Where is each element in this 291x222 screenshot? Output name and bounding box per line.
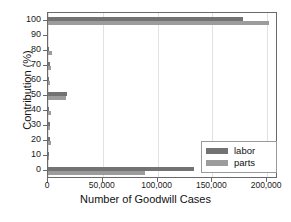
legend-label-parts: parts bbox=[234, 158, 255, 168]
bar-parts-80 bbox=[48, 51, 52, 55]
y-tick-mark-100 bbox=[43, 20, 47, 21]
y-tick-label-0: 0 bbox=[0, 165, 41, 174]
bar-parts-30 bbox=[48, 126, 50, 130]
gridline-x-1 bbox=[103, 13, 104, 177]
x-tick-label-0: 0 bbox=[45, 181, 50, 190]
x-tick-mark-3 bbox=[211, 178, 212, 182]
bar-parts-10 bbox=[48, 156, 49, 160]
gridline-x-2 bbox=[158, 13, 159, 177]
legend-item-labor: labor bbox=[206, 145, 272, 157]
y-axis-label: Contribution (%) bbox=[21, 15, 33, 165]
bar-parts-60 bbox=[48, 81, 50, 85]
y-tick-mark-20 bbox=[43, 140, 47, 141]
bar-parts-0 bbox=[48, 171, 145, 175]
y-tick-mark-10 bbox=[43, 155, 47, 156]
legend-swatch-labor-icon bbox=[206, 148, 228, 154]
bar-parts-40 bbox=[48, 111, 51, 115]
legend-item-parts: parts bbox=[206, 157, 272, 169]
legend-label-labor: labor bbox=[234, 146, 255, 156]
y-tick-mark-0 bbox=[43, 170, 47, 171]
x-tick-label-3: 150,000 bbox=[196, 181, 227, 190]
y-tick-mark-70 bbox=[43, 65, 47, 66]
y-tick-mark-30 bbox=[43, 125, 47, 126]
legend-swatch-parts-icon bbox=[206, 160, 228, 166]
y-tick-mark-80 bbox=[43, 50, 47, 51]
bar-parts-70 bbox=[48, 66, 51, 70]
bar-chart-figure: 0102030405060708090100 050,000100,000150… bbox=[0, 0, 291, 222]
y-tick-mark-50 bbox=[43, 95, 47, 96]
chart-legend: labor parts bbox=[201, 141, 277, 173]
y-tick-mark-60 bbox=[43, 80, 47, 81]
x-axis-label: Number of Goodwill Cases bbox=[0, 193, 291, 205]
bar-parts-50 bbox=[48, 96, 66, 100]
bar-parts-100 bbox=[48, 21, 269, 25]
x-tick-mark-2 bbox=[157, 178, 158, 182]
x-tick-label-2: 100,000 bbox=[141, 181, 172, 190]
x-tick-label-1: 50,000 bbox=[89, 181, 115, 190]
x-tick-mark-0 bbox=[47, 178, 48, 182]
y-tick-mark-40 bbox=[43, 110, 47, 111]
y-tick-mark-90 bbox=[43, 35, 47, 36]
x-tick-label-4: 200,000 bbox=[251, 181, 282, 190]
x-tick-mark-1 bbox=[102, 178, 103, 182]
x-tick-mark-4 bbox=[266, 178, 267, 182]
bar-parts-20 bbox=[48, 141, 51, 145]
